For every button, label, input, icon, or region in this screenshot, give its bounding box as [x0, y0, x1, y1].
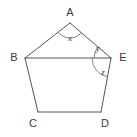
vertex-label-c: C — [29, 117, 37, 129]
vertex-label-d: D — [101, 117, 109, 129]
vertex-label-e: E — [119, 51, 126, 63]
angle-label-y: y — [95, 43, 100, 53]
angle-arcs — [58, 32, 107, 76]
angle-label-x: x — [67, 33, 72, 43]
edge-b-c — [25, 58, 38, 112]
vertex-label-a: A — [66, 6, 74, 18]
angle-arc-z — [92, 58, 108, 77]
edge-a-b — [25, 23, 70, 58]
geometry-diagram: A B C D E x y z — [0, 0, 137, 137]
angle-labels: x y z — [67, 33, 105, 77]
edge-e-a — [70, 23, 111, 58]
angle-label-z: z — [100, 67, 105, 77]
pentagon-figure: A B C D E x y z — [0, 0, 137, 137]
vertex-label-b: B — [10, 51, 17, 63]
